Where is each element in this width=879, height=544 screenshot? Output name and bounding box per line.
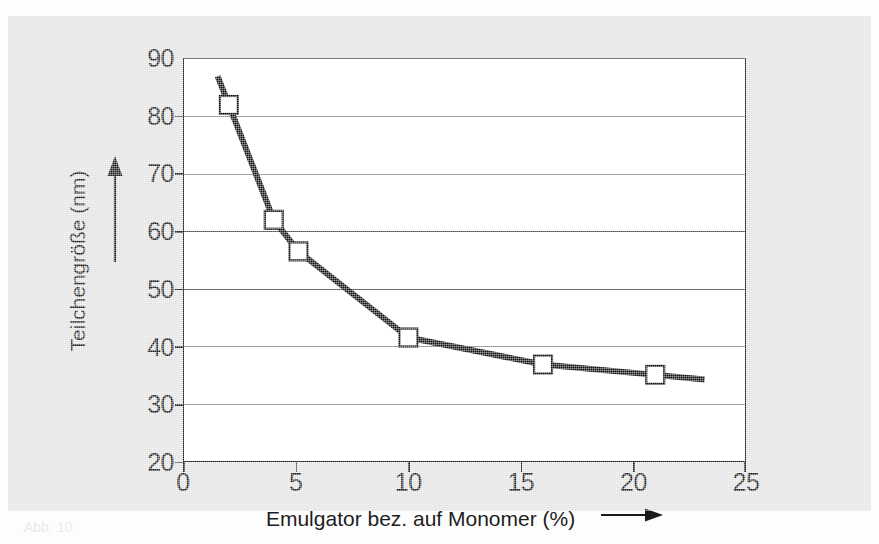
- y-tick-label: 80: [130, 101, 174, 130]
- series-line: [218, 76, 705, 379]
- data-series-plot: [184, 59, 745, 461]
- data-point-marker: [646, 366, 664, 384]
- figure-caption: Abb. 10: [24, 519, 72, 535]
- x-tick-label: 20: [603, 468, 663, 497]
- y-tick-label: 90: [130, 44, 174, 73]
- x-axis-arrow-icon: [601, 503, 663, 527]
- x-axis-tick-labels: 0 5 10 15 20 25: [183, 468, 746, 508]
- data-point-marker: [220, 96, 238, 114]
- y-axis-arrow-icon: [105, 156, 125, 268]
- data-point-marker: [265, 211, 283, 229]
- x-tick-label: 0: [153, 468, 213, 497]
- data-point-marker: [534, 356, 552, 374]
- x-tick-label: 25: [716, 468, 776, 497]
- x-tick-label: 15: [491, 468, 551, 497]
- y-tick-label: 30: [130, 390, 174, 419]
- scanned-figure-panel: Teilchengröße (nm) 90 80 70 60 50 40 30 …: [8, 16, 871, 511]
- figure-page: Teilchengröße (nm) 90 80 70 60 50 40 30 …: [0, 0, 879, 544]
- y-axis-tick-labels: 90 80 70 60 50 40 30 20: [126, 58, 174, 462]
- x-axis-title-row: Emulgator bez. auf Monomer (%): [183, 503, 746, 531]
- data-point-marker: [399, 329, 417, 347]
- y-tick-label: 60: [130, 217, 174, 246]
- x-axis-title: Emulgator bez. auf Monomer (%): [266, 507, 575, 530]
- plot-area: [183, 58, 746, 462]
- y-tick-label: 50: [130, 274, 174, 303]
- y-tick-label: 40: [130, 332, 174, 361]
- data-point-marker: [289, 242, 307, 260]
- x-tick-label: 5: [266, 468, 326, 497]
- y-axis-title: Teilchengröße (nm): [66, 171, 90, 352]
- x-tick-label: 10: [378, 468, 438, 497]
- y-tick-label: 70: [130, 159, 174, 188]
